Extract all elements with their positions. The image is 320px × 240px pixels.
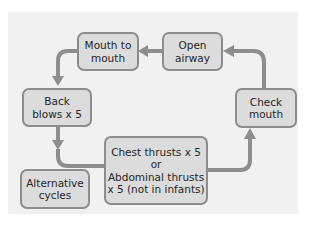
node-label: Mouth to [85, 39, 132, 52]
node-label: Open [178, 39, 206, 52]
arrowhead-down-1 [52, 76, 64, 86]
node-label: or [151, 158, 162, 171]
node-label: mouth [91, 52, 125, 65]
node-label: airway [175, 52, 210, 65]
arrowhead-down-2 [52, 140, 64, 150]
node-label: Abdominal thrusts [108, 171, 204, 184]
node-alternative-cycles: Alternative cycles [20, 169, 90, 209]
node-label: Check [250, 96, 282, 109]
node-label: Back [44, 95, 70, 108]
arrowhead-up-1 [244, 128, 256, 139]
node-label: Alternative [26, 177, 84, 190]
node-label: cycles [39, 189, 72, 202]
node-label: x 5 (not in infants) [107, 183, 204, 196]
node-label: Chest thrusts x 5 [111, 146, 201, 159]
node-label: mouth [249, 108, 283, 121]
arrow-mouth-to-back [58, 51, 77, 78]
node-check-mouth: Check mouth [235, 88, 297, 128]
node-open-airway: Open airway [162, 32, 223, 71]
node-mouth-to-mouth: Mouth to mouth [77, 32, 139, 71]
node-chest-thrusts: Chest thrusts x 5 or Abdominal thrusts x… [104, 136, 208, 205]
node-back-blows: Back blows x 5 [22, 88, 92, 127]
arrowhead-left-1 [138, 45, 148, 57]
line-back-to-chest [58, 149, 104, 166]
node-label: blows x 5 [32, 108, 82, 121]
arrow-chest-to-check [207, 137, 250, 170]
arrowhead-left-2 [223, 45, 234, 57]
arrow-check-to-open [233, 51, 264, 88]
